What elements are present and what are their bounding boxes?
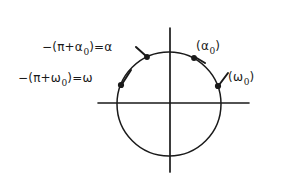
label-alpha-negative-suffix: )=α bbox=[89, 40, 112, 54]
leader-omega-negative bbox=[122, 70, 131, 84]
label-alpha-zero-suffix: ) bbox=[215, 39, 220, 53]
label-omega-zero-prefix: (ω bbox=[228, 70, 243, 84]
unit-circle bbox=[117, 52, 221, 156]
leader-omega-zero bbox=[219, 73, 228, 85]
point-omega-negative bbox=[118, 82, 124, 88]
label-alpha-zero: (α0) bbox=[196, 39, 220, 56]
label-alpha-negative: −(π+α0)=α bbox=[42, 40, 112, 57]
diagram-canvas bbox=[0, 0, 283, 180]
label-alpha-zero-prefix: (α bbox=[196, 39, 209, 53]
label-omega-zero-suffix: ) bbox=[249, 70, 254, 84]
label-alpha-negative-prefix: −(π+α bbox=[42, 40, 83, 54]
math-figure: −(π+α0)=α −(π+ω0)=ω (α0) (ω0) bbox=[0, 0, 283, 180]
label-omega-zero: (ω0) bbox=[228, 70, 254, 87]
label-omega-negative-suffix: )=ω bbox=[67, 71, 92, 85]
point-alpha-negative bbox=[144, 54, 150, 60]
label-omega-negative: −(π+ω0)=ω bbox=[18, 71, 93, 88]
leader-alpha-negative bbox=[136, 47, 146, 56]
label-omega-negative-prefix: −(π+ω bbox=[18, 71, 61, 85]
point-omega-zero bbox=[215, 83, 221, 89]
